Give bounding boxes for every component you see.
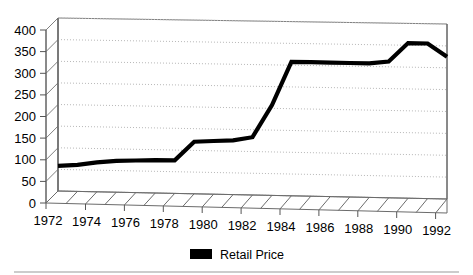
floor-hatch-1972 (66, 191, 77, 203)
data-series-retail-price (58, 43, 447, 166)
floor-hatch-1985 (319, 197, 330, 210)
x-axis-label-1972: 1972 (34, 213, 63, 228)
depth-line-300 (46, 61, 58, 73)
x-axis-label-1976: 1976 (111, 215, 140, 230)
floor-hatch-1988 (377, 198, 388, 212)
y-axis-label-150: 150 (14, 131, 36, 146)
floor-hatch-1989 (397, 198, 408, 212)
gridline-150 (58, 126, 447, 133)
floor-hatch-1979 (202, 194, 213, 207)
floor-hatch-1977 (163, 193, 174, 206)
floor-hatch-1975 (124, 193, 135, 205)
x-axis-label-1984: 1984 (267, 219, 296, 234)
floor-hatch-1976 (144, 193, 155, 206)
y-axis-label-400: 400 (14, 23, 36, 38)
floor-hatch-1973 (86, 192, 97, 204)
floor-hatch-1991 (436, 199, 447, 213)
depth-line-250 (46, 83, 58, 95)
retail-price-line (58, 43, 447, 166)
x-axis-label-1990: 1990 (383, 222, 412, 237)
y-axis-label-200: 200 (14, 109, 36, 124)
depth-line-50 (46, 169, 58, 181)
floor-hatch-1982 (261, 195, 272, 208)
gridline-250 (58, 83, 447, 90)
y-axis-ticks (40, 30, 46, 203)
gridline-100 (58, 148, 447, 156)
y-axis-label-300: 300 (14, 66, 36, 81)
legend-swatch-retail-price (190, 249, 212, 259)
depth-line-100 (46, 148, 58, 160)
chart-3d-floor (46, 191, 447, 213)
x-axis-label-1982: 1982 (228, 218, 257, 233)
x-axis-label-1980: 1980 (189, 217, 218, 232)
floor-hatch-1984 (299, 196, 310, 209)
y-axis-label-250: 250 (14, 87, 36, 102)
legend-label-retail-price: Retail Price (220, 248, 284, 262)
floor-hatch-1980 (222, 195, 233, 208)
depth-line-350 (46, 40, 58, 52)
floor-hatch-1983 (280, 196, 291, 209)
x-axis-label-1986: 1986 (305, 220, 334, 235)
x-axis-label-1992: 1992 (422, 223, 451, 238)
floor-hatch-1987 (358, 197, 369, 211)
floor-hatch-1978 (183, 194, 194, 207)
floor-hatch-1981 (241, 195, 252, 208)
gridline-350 (58, 40, 447, 46)
floor-hatch-1974 (105, 192, 116, 204)
chart-legend: Retail Price (190, 248, 284, 262)
y-axis-label-350: 350 (14, 44, 36, 59)
y-axis-labels: 0 50 100 150 200 250 300 350 400 (14, 23, 36, 211)
floor-hatch-1990 (416, 199, 427, 213)
x-axis-label-1988: 1988 (344, 221, 373, 236)
depth-line-200 (46, 105, 58, 117)
line-chart: 0 50 100 150 200 250 300 350 400 (0, 0, 473, 275)
y-axis-label-0: 0 (29, 196, 36, 211)
depth-line-400 (46, 18, 58, 30)
chart-container: 0 50 100 150 200 250 300 350 400 (0, 0, 473, 275)
y-axis-label-100: 100 (14, 152, 36, 167)
gridline-200 (58, 105, 447, 112)
floor-hatch-1986 (338, 197, 349, 211)
x-axis-label-1974: 1974 (72, 214, 101, 229)
y-axis-label-50: 50 (22, 174, 36, 189)
x-axis-labels: 1972 1974 1976 1978 1980 1982 1984 1986 … (34, 213, 452, 238)
gridline-50 (58, 169, 447, 177)
gridlines (58, 18, 447, 199)
x-axis-label-1978: 1978 (150, 216, 179, 231)
sidewall-depth-lines (46, 18, 58, 203)
depth-line-150 (46, 126, 58, 138)
